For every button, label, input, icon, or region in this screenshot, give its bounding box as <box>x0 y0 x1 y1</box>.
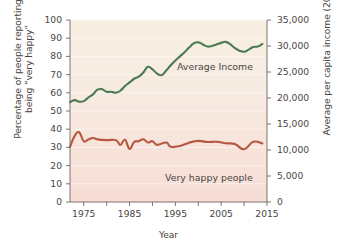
x-tick-1985: 1985 <box>110 208 150 219</box>
y-right-tick-20000: 20,000 <box>277 92 327 103</box>
y-left-tick-20: 20 <box>18 160 62 171</box>
x-tick-2005: 2005 <box>201 208 241 219</box>
y-left-tick-50: 50 <box>18 105 62 116</box>
y-right-tick-35000: 35,000 <box>277 14 327 25</box>
y-left-tick-70: 70 <box>18 69 62 80</box>
chart-figure: Percentage of people reporting being “ve… <box>0 0 347 249</box>
y-right-tick-30000: 30,000 <box>277 40 327 51</box>
y-right-tick-15000: 15,000 <box>277 118 327 129</box>
y-left-tick-40: 40 <box>18 123 62 134</box>
y-right-tick-10000: 10,000 <box>277 144 327 155</box>
x-tick-1995: 1995 <box>155 208 195 219</box>
y-left-tick-10: 10 <box>18 178 62 189</box>
y-right-tick-25000: 25,000 <box>277 66 327 77</box>
x-tick-1975: 1975 <box>64 208 104 219</box>
y-left-tick-0: 0 <box>18 196 62 207</box>
y-left-tick-80: 80 <box>18 50 62 61</box>
y-left-tick-100: 100 <box>18 14 62 25</box>
x-tick-2015: 2015 <box>247 208 287 219</box>
y-left-tick-60: 60 <box>18 87 62 98</box>
y-left-tick-30: 30 <box>18 141 62 152</box>
y-right-tick-0: 0 <box>277 196 327 207</box>
y-right-tick-5000: 5,000 <box>277 170 327 181</box>
y-left-tick-90: 90 <box>18 32 62 43</box>
